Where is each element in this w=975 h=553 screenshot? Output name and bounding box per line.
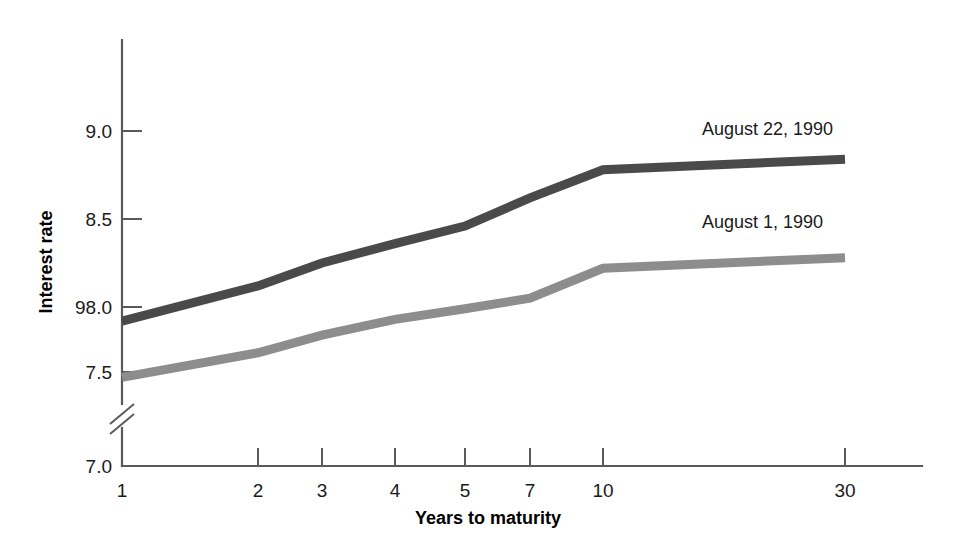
y-axis-title: Interest rate — [36, 210, 56, 313]
series-label-august-1-1990: August 1, 1990 — [702, 212, 823, 232]
x-tick-label-2: 2 — [253, 480, 264, 501]
x-tick-label-10: 10 — [592, 480, 613, 501]
x-axis-title: Years to maturity — [415, 508, 561, 528]
series-label-august-22-1990: August 22, 1990 — [702, 119, 833, 139]
y-tick-label-7-5: 7.5 — [86, 362, 112, 383]
yield-curve-chart: 9.0 8.5 98.0 7.5 7.0 1 2 3 4 5 7 10 30 Y… — [0, 0, 975, 553]
x-tick-label-30: 30 — [834, 480, 855, 501]
x-tick-label-1: 1 — [117, 480, 128, 501]
series-line-august-22-1990 — [122, 159, 845, 321]
x-tick-label-5: 5 — [460, 480, 471, 501]
y-tick-label-8-5: 8.5 — [86, 209, 112, 230]
x-tick-label-4: 4 — [390, 480, 401, 501]
series-line-august-1-1990 — [122, 258, 845, 378]
axis-break-slash-icon — [110, 404, 134, 424]
y-tick-label-8-0: 98.0 — [75, 297, 112, 318]
x-tick-label-3: 3 — [317, 480, 328, 501]
y-tick-label-7-0: 7.0 — [86, 456, 112, 477]
y-tick-label-9-0: 9.0 — [86, 121, 112, 142]
x-tick-label-7: 7 — [525, 480, 536, 501]
chart-page: 9.0 8.5 98.0 7.5 7.0 1 2 3 4 5 7 10 30 Y… — [0, 0, 975, 553]
